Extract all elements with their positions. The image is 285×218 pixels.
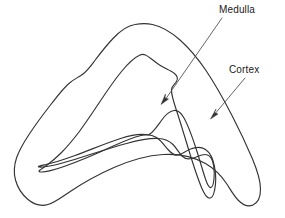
section-line-drawing — [0, 0, 285, 218]
medulla-leader-line — [165, 18, 222, 100]
cortex-arrowhead — [211, 109, 219, 119]
outer-contour — [14, 24, 260, 206]
cortex-leader-line — [214, 78, 245, 115]
label-medulla: Medulla — [219, 4, 255, 15]
middle-contour — [39, 54, 216, 198]
figure-container: Medulla Cortex — [0, 0, 285, 218]
medulla-arrowhead — [161, 94, 169, 105]
label-cortex: Cortex — [229, 64, 259, 75]
